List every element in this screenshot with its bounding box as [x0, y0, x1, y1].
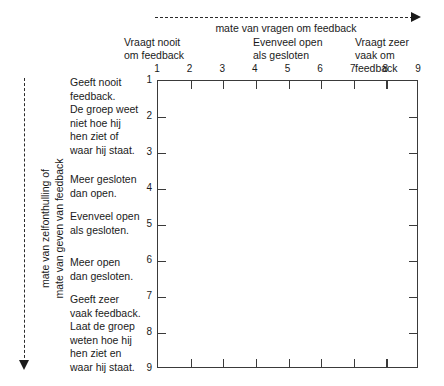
x-tick-mark: [191, 359, 192, 367]
y-tick-mark: [409, 153, 417, 154]
y-tick-label: 8: [139, 327, 152, 337]
y-tick-label: 4: [139, 183, 152, 193]
y-tick-mark: [158, 189, 166, 190]
x-tick-mark: [321, 359, 322, 367]
x-tick-mark: [354, 81, 355, 89]
grid-plot-area[interactable]: [157, 80, 418, 368]
x-tick-label: 7: [346, 64, 360, 74]
y-tick-label: 2: [139, 111, 152, 121]
column-anchor-mid-line-2: als gesloten: [253, 49, 348, 62]
y-tick-label: 3: [139, 147, 152, 157]
column-anchor-high-line-2: vaak om: [355, 49, 435, 62]
vertical-axis-title-line-2: mate van geven van feedback: [52, 114, 66, 344]
y-tick-mark: [409, 225, 417, 226]
y-tick-label: 6: [139, 255, 152, 265]
horizontal-axis-arrowhead-icon: [411, 12, 421, 22]
y-tick-mark: [158, 117, 166, 118]
y-tick-mark: [158, 297, 166, 298]
y-tick-mark: [158, 333, 166, 334]
row-anchor-5-line-2: vaak feedback.: [70, 307, 156, 321]
row-anchor-5-line-5: hen ziet en: [70, 347, 156, 361]
x-tick-mark: [354, 359, 355, 367]
column-anchor-low-line-1: Vraagt nooit: [124, 36, 214, 49]
x-tick-mark: [289, 359, 290, 367]
x-tick-mark: [256, 359, 257, 367]
horizontal-axis-title: mate van vragen om feedback: [155, 22, 417, 35]
column-anchor-label-mid: Evenveel open als gesloten: [253, 36, 348, 62]
y-tick-mark: [158, 153, 166, 154]
y-tick-label: 5: [139, 219, 152, 229]
row-anchor-4-line-2: dan gesloten.: [70, 270, 156, 284]
y-tick-mark: [409, 297, 417, 298]
x-tick-label: 8: [378, 64, 392, 74]
column-anchor-low-line-2: om feedback: [124, 49, 214, 62]
y-tick-mark: [409, 189, 417, 190]
vertical-axis-title-line-1: mate van zelfonthulling of: [39, 114, 53, 344]
y-tick-label: 9: [139, 363, 152, 373]
x-tick-mark: [321, 81, 322, 89]
y-tick-mark: [409, 333, 417, 334]
horizontal-axis-dashed-line: [155, 17, 413, 18]
x-tick-label: 5: [281, 64, 295, 74]
row-anchor-1-line-2: feedback.: [70, 90, 156, 104]
vertical-axis-dashed-line: [24, 78, 25, 363]
y-tick-label: 1: [139, 75, 152, 85]
x-tick-label: 3: [215, 64, 229, 74]
x-tick-mark: [386, 359, 387, 367]
column-anchor-mid-line-1: Evenveel open: [253, 36, 348, 49]
y-tick-mark: [409, 261, 417, 262]
feedback-johari-grid-figure: mate van vragen om feedback mate van zel…: [0, 0, 444, 386]
x-tick-mark: [289, 81, 290, 89]
y-tick-label: 7: [139, 291, 152, 301]
y-tick-mark: [158, 225, 166, 226]
x-tick-mark: [223, 81, 224, 89]
y-tick-mark: [158, 261, 166, 262]
x-tick-label: 4: [248, 64, 262, 74]
x-tick-mark: [223, 359, 224, 367]
row-anchor-1-line-5: hen ziet of: [70, 130, 156, 144]
x-tick-label: 1: [150, 64, 164, 74]
vertical-axis-arrowhead-icon: [19, 360, 29, 370]
x-tick-label: 2: [183, 64, 197, 74]
y-tick-mark: [409, 117, 417, 118]
x-tick-mark: [256, 81, 257, 89]
x-tick-mark: [386, 81, 387, 89]
x-tick-mark: [191, 81, 192, 89]
x-tick-label: 6: [313, 64, 327, 74]
vertical-axis-title: mate van zelfonthulling of mate van geve…: [39, 114, 66, 344]
x-tick-label: 9: [411, 64, 425, 74]
column-anchor-label-low: Vraagt nooit om feedback: [124, 36, 214, 62]
column-anchor-high-line-1: Vraagt zeer: [355, 36, 435, 49]
